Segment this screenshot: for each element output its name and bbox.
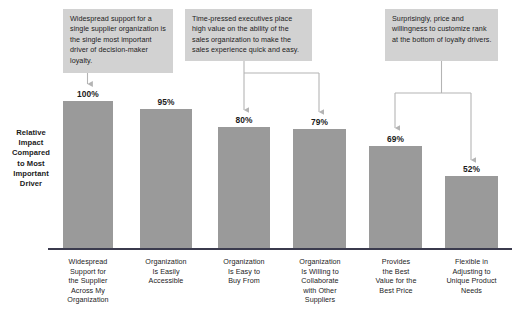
category-label-2: Organization Is Easily Accessible xyxy=(133,257,199,286)
category-label-3: Organization Is Easy to Buy From xyxy=(211,257,277,286)
category-label-1: Widespread Support for the Supplier Acro… xyxy=(55,257,121,305)
bar-6[interactable] xyxy=(445,176,498,248)
bar-value-1: 100% xyxy=(63,89,113,99)
bar-value-6: 52% xyxy=(445,164,498,174)
y-axis-title-line: Important xyxy=(2,169,60,179)
bar-2[interactable] xyxy=(140,109,192,248)
bar-value-2: 95% xyxy=(140,97,192,107)
bar-4[interactable] xyxy=(293,129,346,248)
x-axis-line xyxy=(48,248,512,250)
bar-chart-plot: Relative Impact Compared to Most Importa… xyxy=(0,0,518,316)
category-label-5: Provides the Best Value for the Best Pri… xyxy=(362,257,430,295)
category-label-6: Flexible in Adjusting to Unique Product … xyxy=(435,257,508,295)
bar-value-4: 79% xyxy=(293,117,346,127)
chart-canvas: Widespread support for a single supplier… xyxy=(0,0,518,316)
bar-value-3: 80% xyxy=(218,115,270,125)
y-axis-title-line: to Most xyxy=(2,159,60,169)
bar-1[interactable] xyxy=(63,101,113,248)
y-axis-title: Relative Impact Compared to Most Importa… xyxy=(2,128,60,189)
y-axis-title-line: Impact xyxy=(2,138,60,148)
y-axis-title-line: Compared xyxy=(2,148,60,158)
y-axis-title-line: Driver xyxy=(2,179,60,189)
y-axis-title-line: Relative xyxy=(2,128,60,138)
category-label-4: Organization Is Willing to Collaborate w… xyxy=(286,257,354,305)
bar-value-5: 69% xyxy=(369,134,422,144)
bar-5[interactable] xyxy=(369,146,422,248)
bar-3[interactable] xyxy=(218,127,270,248)
